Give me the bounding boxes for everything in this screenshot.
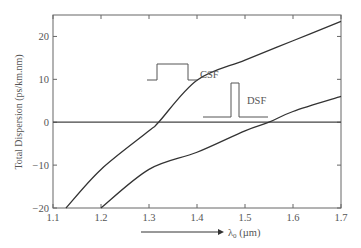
y-tick-label: 10 [39,74,50,85]
x-tick-label: 1.4 [190,212,204,223]
x-tick-label: 1.3 [142,212,155,223]
csf-pulse-icon [147,64,198,80]
y-tick-label: 20 [39,31,50,42]
curve-csf [66,21,341,208]
x-axis-label: λ0 (µm) [228,227,261,240]
x-axis-arrow-icon [218,229,224,235]
x-tick-label: 1.7 [334,212,347,223]
plot-frame [53,15,341,208]
x-axis-label-unit: (µm) [237,227,261,239]
curve-dsf [101,96,341,208]
x-tick-label: 1.5 [238,212,251,223]
y-axis-label: Total Dispersion (ps/km.nm) [13,54,25,169]
curves [66,21,341,208]
x-tick-label: 1.6 [286,212,299,223]
csf-label: CSF [200,69,219,80]
y-tick-label: −10 [33,160,49,171]
y-tick-label: 0 [44,117,49,128]
x-tick-label: 1.2 [94,212,107,223]
y-tick-label: −20 [33,203,49,214]
dsf-label: DSF [247,95,266,106]
dispersion-chart: 1.11.21.31.41.51.61.7−20−1001020 CSF DSF… [0,0,361,248]
